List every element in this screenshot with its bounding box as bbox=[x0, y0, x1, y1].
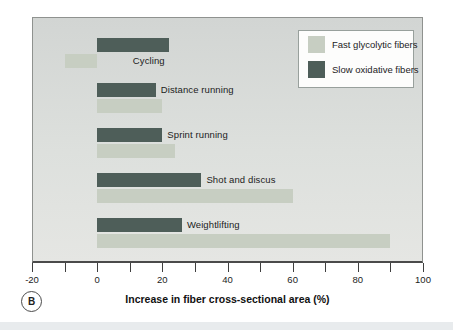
x-axis-tick bbox=[390, 263, 391, 272]
x-axis-tick bbox=[130, 263, 131, 272]
legend-swatch-slow-oxidative-icon bbox=[308, 61, 325, 78]
x-axis-tick bbox=[293, 263, 294, 272]
x-axis-tick bbox=[195, 263, 196, 272]
panel-label-text: B bbox=[28, 296, 35, 307]
bar-fast-glycolytic bbox=[97, 144, 175, 158]
legend-box: Fast glycolytic fibers Slow oxidative fi… bbox=[298, 30, 414, 88]
bar-slow-oxidative bbox=[97, 218, 182, 232]
panel-label-badge: B bbox=[21, 291, 42, 312]
x-axis-tick bbox=[162, 263, 163, 272]
x-axis-tick bbox=[423, 263, 424, 272]
bar-slow-oxidative bbox=[97, 173, 201, 187]
bar-fast-glycolytic bbox=[65, 54, 98, 68]
bottom-strip bbox=[0, 322, 453, 330]
x-axis-tick-label: 60 bbox=[287, 274, 298, 285]
x-axis-tick bbox=[325, 263, 326, 272]
x-axis-tick-label: 100 bbox=[415, 274, 431, 285]
legend-item-fast-glycolytic: Fast glycolytic fibers bbox=[308, 36, 413, 53]
legend-swatch-fast-glycolytic-icon bbox=[308, 36, 325, 53]
category-label: Cycling bbox=[133, 54, 165, 68]
category-label: Sprint running bbox=[167, 128, 228, 142]
legend-label-fast-glycolytic: Fast glycolytic fibers bbox=[332, 39, 418, 50]
x-axis-tick-label: -20 bbox=[25, 274, 39, 285]
x-axis-tick bbox=[97, 263, 98, 272]
x-axis-tick bbox=[32, 263, 33, 272]
legend-item-slow-oxidative: Slow oxidative fibers bbox=[308, 61, 413, 78]
bar-slow-oxidative bbox=[97, 38, 169, 52]
x-axis-tick-label: 80 bbox=[353, 274, 364, 285]
category-label: Shot and discus bbox=[206, 173, 275, 187]
category-label: Weightlifting bbox=[187, 218, 240, 232]
x-axis-tick-label: 0 bbox=[95, 274, 100, 285]
bar-slow-oxidative bbox=[97, 128, 162, 142]
figure-panel-b: -20020406080100CyclingDistance runningSp… bbox=[0, 0, 453, 330]
bar-slow-oxidative bbox=[97, 83, 156, 97]
category-label: Distance running bbox=[161, 83, 234, 97]
bar-fast-glycolytic bbox=[97, 234, 390, 248]
bar-fast-glycolytic bbox=[97, 189, 293, 203]
x-axis-tick-label: 20 bbox=[157, 274, 168, 285]
x-axis-tick bbox=[65, 263, 66, 272]
x-axis-tick bbox=[358, 263, 359, 272]
x-axis-tick bbox=[260, 263, 261, 272]
x-axis-tick bbox=[228, 263, 229, 272]
bar-fast-glycolytic bbox=[97, 99, 162, 113]
legend-label-slow-oxidative: Slow oxidative fibers bbox=[332, 64, 419, 75]
x-axis-tick-label: 40 bbox=[222, 274, 233, 285]
x-axis-title: Increase in fiber cross-sectional area (… bbox=[32, 293, 423, 305]
